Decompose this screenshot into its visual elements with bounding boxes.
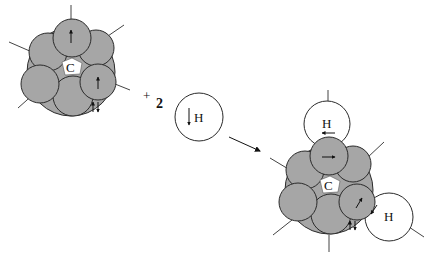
carbon-product-label: C — [324, 178, 333, 193]
carbon-label: C — [66, 60, 75, 75]
coefficient: 2 — [156, 96, 163, 111]
plus-sign: + — [143, 88, 150, 103]
carbon-atom-reactant: C — [9, 5, 130, 116]
reaction-diagram: C + 2 H H — [0, 0, 430, 257]
reaction-arrow-icon — [229, 137, 260, 151]
hydrogen-top-label: H — [322, 116, 331, 131]
hydrogen-atom-reactant: H — [175, 93, 223, 141]
product-molecule: H H C — [270, 90, 424, 252]
hydrogen-right-label: H — [384, 209, 393, 224]
hydrogen-label: H — [194, 110, 203, 125]
